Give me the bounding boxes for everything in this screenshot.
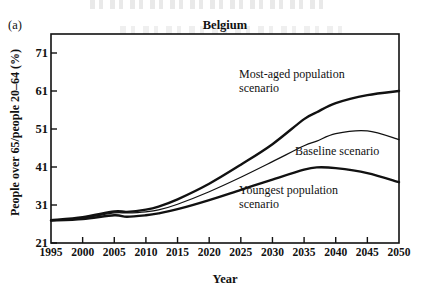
figure-panel: (a) Belgium People over 65/people 20–64 … <box>0 0 422 295</box>
annotation-youngest-scenario: Youngest population scenario <box>239 184 338 211</box>
annotation-most-aged-scenario: Most-aged population scenario <box>239 68 345 95</box>
plot-frame <box>51 34 399 243</box>
annotation-baseline-scenario: Baseline scenario <box>295 145 379 159</box>
